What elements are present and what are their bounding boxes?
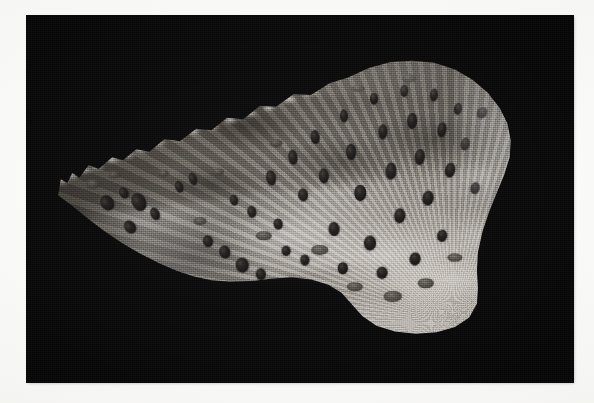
scanned-page: [0, 0, 594, 403]
specimen-body: [27, 16, 573, 382]
bleed-through-text-top: [0, 1, 594, 14]
specimen-photograph-plate: [27, 16, 573, 382]
bleed-through-text-bottom: [0, 385, 594, 398]
photographic-grain: [27, 16, 573, 382]
